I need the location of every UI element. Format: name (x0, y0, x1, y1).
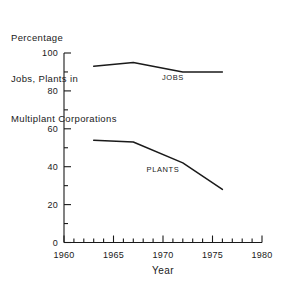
x-axis-title: Year (152, 265, 174, 276)
chart-figure: Percentage Jobs, Plants in Multiplant Co… (0, 0, 290, 284)
y-axis-ticks (64, 53, 71, 243)
x-tick-label-1980: 1980 (251, 250, 272, 260)
series-inline-labels: JOBSPLANTS (147, 73, 184, 175)
y-tick-label-60: 60 (47, 124, 58, 134)
y-tick-label-20: 20 (47, 200, 58, 210)
x-tick-label-1960: 1960 (53, 250, 74, 260)
line-chart-plot: 020406080100 19601965197019751980 JOBSPL… (0, 0, 290, 284)
y-tick-label-80: 80 (47, 86, 58, 96)
x-axis-ticks (64, 236, 262, 243)
y-tick-label-40: 40 (47, 162, 58, 172)
y-axis: 020406080100 (42, 48, 71, 248)
x-tick-label-1970: 1970 (152, 250, 173, 260)
series-line-jobs (94, 62, 223, 71)
y-tick-label-0: 0 (53, 238, 58, 248)
x-tick-label-1975: 1975 (202, 250, 223, 260)
x-axis: 19601965197019751980 (53, 236, 272, 260)
x-axis-tick-labels: 19601965197019751980 (53, 250, 272, 260)
x-tick-label-1965: 1965 (103, 250, 124, 260)
series-label-plants: PLANTS (147, 165, 180, 174)
y-tick-label-100: 100 (42, 48, 58, 58)
y-axis-tick-labels: 020406080100 (42, 48, 58, 248)
series-label-jobs: JOBS (162, 73, 184, 82)
